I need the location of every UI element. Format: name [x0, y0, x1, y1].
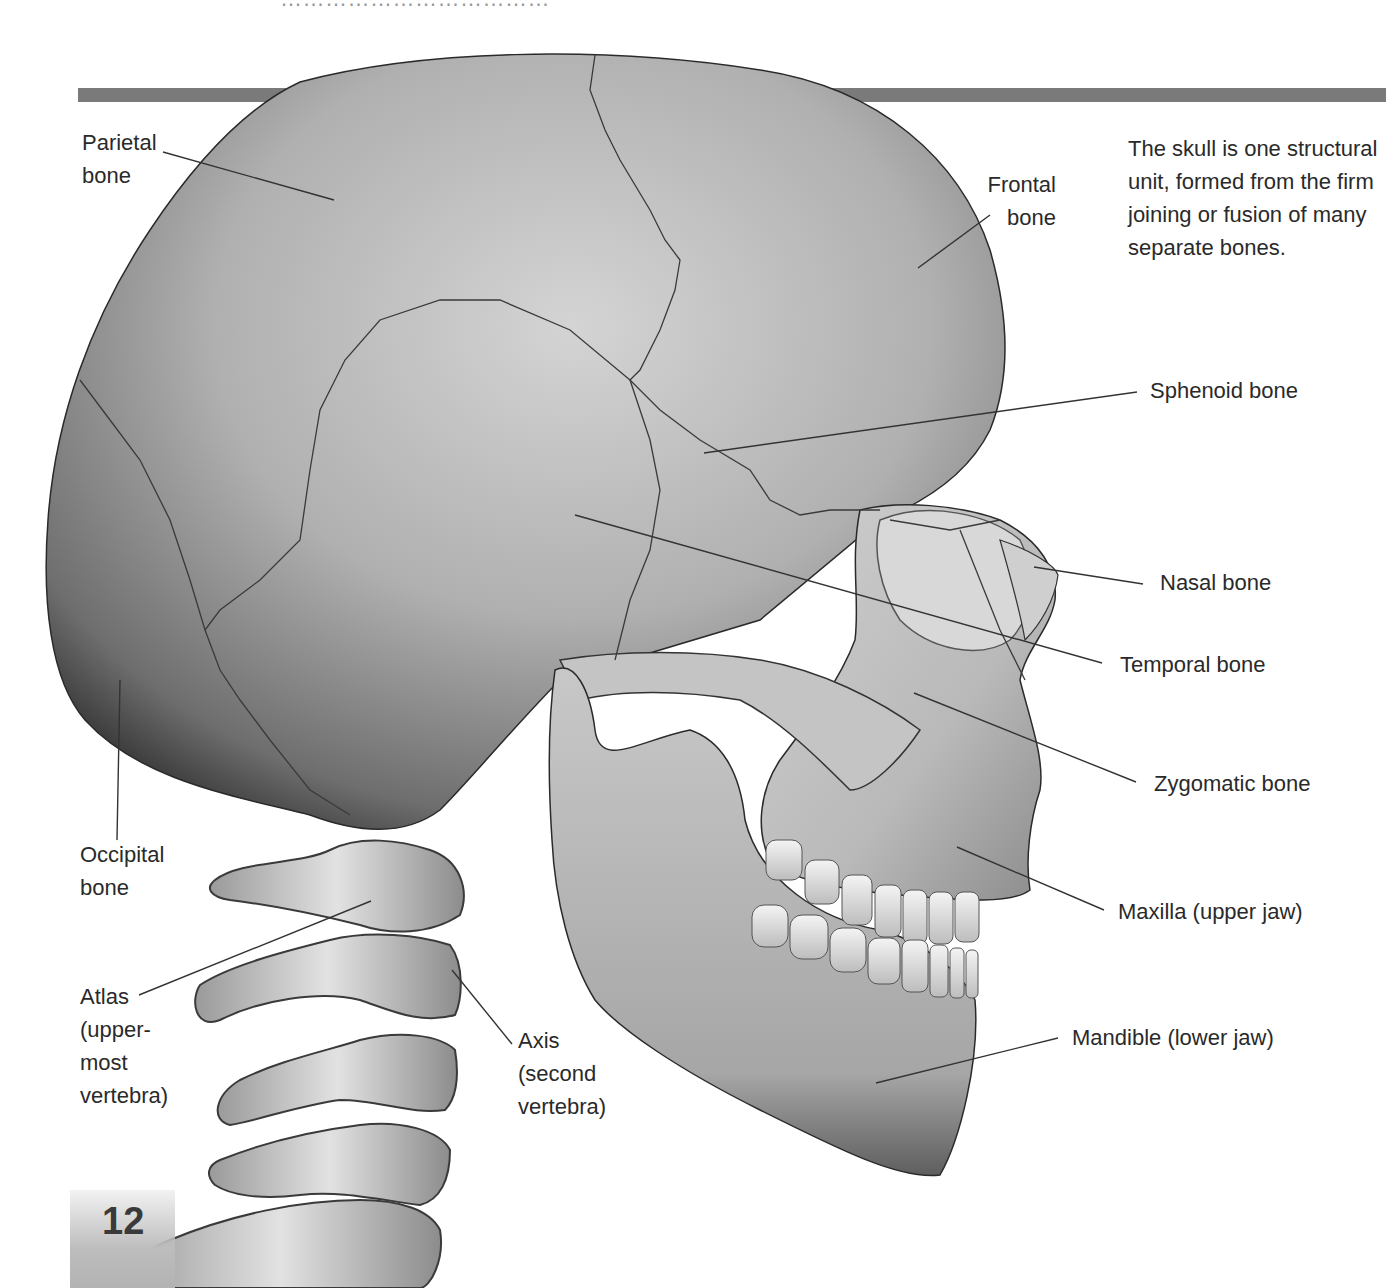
label-atlas: Atlas (upper- most vertebra) [80, 980, 168, 1112]
label-sphenoid-bone: Sphenoid bone [1150, 374, 1298, 407]
label-axis: Axis (second vertebra) [518, 1024, 606, 1123]
skull-caption: The skull is one structural unit, formed… [1128, 132, 1390, 264]
label-maxilla: Maxilla (upper jaw) [1118, 895, 1303, 928]
label-nasal-bone: Nasal bone [1160, 566, 1271, 599]
leader-axis [452, 970, 512, 1044]
textbook-page: ……………………………… [0, 0, 1394, 1288]
label-frontal-bone: Frontal bone [960, 168, 1056, 234]
page-number: 12 [102, 1200, 144, 1243]
label-mandible: Mandible (lower jaw) [1072, 1021, 1274, 1054]
label-occipital-bone: Occipital bone [80, 838, 164, 904]
label-parietal-bone: Parietal bone [82, 126, 157, 192]
label-temporal-bone: Temporal bone [1120, 648, 1266, 681]
label-zygomatic-bone: Zygomatic bone [1154, 767, 1311, 800]
